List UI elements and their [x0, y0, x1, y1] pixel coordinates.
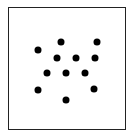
dot-11: [91, 86, 98, 93]
dot-8: [63, 70, 70, 77]
dot-2: [94, 39, 101, 46]
dot-3: [35, 47, 42, 54]
dot-7: [44, 70, 51, 77]
dot-5: [73, 55, 80, 62]
dot-10: [35, 87, 42, 94]
diagram-frame: [8, 7, 126, 130]
dot-1: [58, 39, 65, 46]
dot-4: [54, 55, 61, 62]
dot-6: [92, 55, 99, 62]
dot-12: [63, 97, 70, 104]
dot-9: [82, 70, 89, 77]
